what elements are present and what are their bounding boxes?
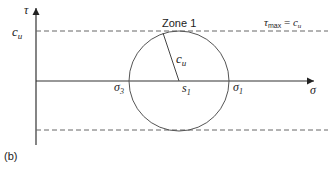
zone-label: Zone 1 — [162, 17, 196, 29]
panel-label: (b) — [4, 150, 17, 162]
sigma3-label: σ3 — [114, 80, 124, 96]
cu-tick-label: cu — [12, 24, 23, 41]
radius-label: cu — [176, 51, 187, 68]
sigma1-label: σ1 — [233, 80, 243, 96]
mohr-circle-diagram: τ cu Zone 1 τmax = cu cu σ3 s1 σ1 σ (b) — [0, 0, 332, 170]
sigma-axis-label: σ — [310, 83, 317, 97]
tau-axis-label: τ — [24, 3, 29, 17]
tau-max-label: τmax = cu — [264, 16, 302, 30]
s1-label: s1 — [182, 81, 191, 97]
